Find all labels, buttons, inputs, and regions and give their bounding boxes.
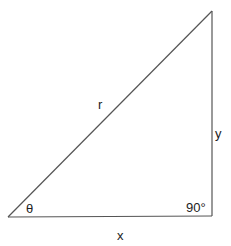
- right-angle-label: 90°: [186, 200, 206, 215]
- hypotenuse-line: [8, 11, 212, 217]
- opposite-label: y: [215, 126, 222, 141]
- angle-theta-label: θ: [26, 201, 33, 216]
- right-triangle-diagram: r y x θ 90°: [0, 0, 231, 246]
- adjacent-label: x: [117, 228, 124, 243]
- adjacent-side-line: [8, 216, 212, 217]
- hypotenuse-label: r: [98, 97, 103, 112]
